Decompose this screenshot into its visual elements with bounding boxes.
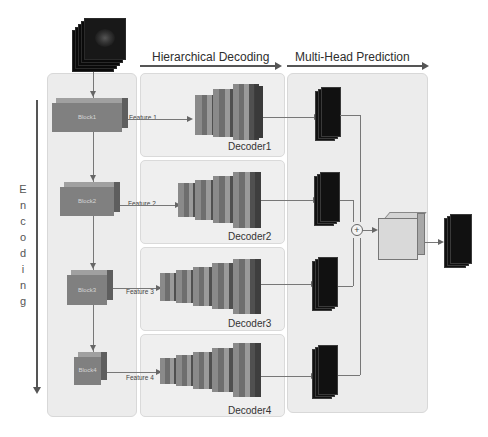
arrowhead-icon [90, 91, 96, 97]
decoder2-output-arrow [261, 200, 314, 201]
encoder-block-2: Block2 [60, 182, 120, 216]
pred1-to-fusion [340, 115, 360, 116]
final-output-map [444, 214, 474, 270]
prediction-map-2 [314, 172, 340, 226]
prediction-map-4 [312, 345, 338, 399]
decoder3-label: Decoder3 [228, 318, 271, 329]
feature-1-arrow [128, 119, 188, 120]
sum-fusion-icon: + [351, 224, 363, 236]
pred3-fusion-line [353, 238, 354, 286]
encoder-block-1: Block1 [52, 98, 128, 132]
arrowhead-icon [90, 175, 96, 181]
feature-4-arrow [107, 372, 157, 373]
feature-3-label: Feature 3 [126, 288, 154, 295]
arrowhead-icon [187, 116, 193, 122]
header-multi-head-prediction: Multi-Head Prediction [295, 50, 410, 64]
encoder-block-3: Block3 [67, 270, 113, 305]
encoding-arrowhead-icon [33, 387, 41, 394]
decoder1-output-arrow [263, 117, 315, 118]
prediction-map-3 [312, 257, 338, 311]
decoding-arrowhead-icon [275, 62, 282, 70]
pred4-fusion-line [360, 238, 361, 375]
decoder4-label: Decoder4 [228, 405, 271, 416]
prediction-arrowhead-icon [422, 62, 429, 70]
encoder-block-4: Block4 [74, 352, 107, 385]
fusion-cube [378, 212, 424, 259]
pred2-to-fusion [340, 200, 353, 201]
pred4-to-fusion [338, 375, 360, 376]
brain-image-icon [95, 29, 115, 47]
header-hierarchical-decoding: Hierarchical Decoding [152, 50, 269, 64]
pred1-fusion-line [360, 115, 361, 222]
feature-4-label: Feature 4 [126, 374, 154, 381]
decoder1-label: Decoder1 [228, 141, 271, 152]
feature-2-arrow [120, 205, 176, 206]
decoder2-label: Decoder2 [228, 231, 271, 242]
encoding-arrow [36, 100, 38, 388]
input-scan-stack [72, 18, 124, 72]
arrowhead-icon [90, 263, 96, 269]
pred2-fusion-line [353, 200, 354, 222]
feature-3-arrow [113, 288, 157, 289]
decoder3-output-arrow [261, 284, 312, 285]
arrowhead-icon [90, 345, 96, 351]
decoding-arrow [140, 65, 276, 67]
prediction-arrow [287, 65, 423, 67]
decoder4-output-arrow [261, 376, 312, 377]
cube-to-output-arrow [424, 242, 439, 243]
pred3-to-fusion [338, 286, 353, 287]
prediction-map-1 [315, 87, 341, 141]
